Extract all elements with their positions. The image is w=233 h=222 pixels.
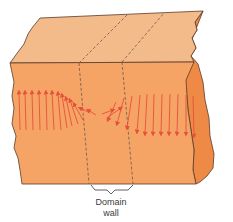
crystal-top-face [10,11,203,63]
domain-wall-label-line2: wall [102,208,119,218]
domain-wall-bracket [91,185,133,194]
domain-wall-diagram: Domain wall [0,0,233,222]
domain-wall-label-line1: Domain [95,197,126,207]
crystal-front-face [10,62,196,184]
